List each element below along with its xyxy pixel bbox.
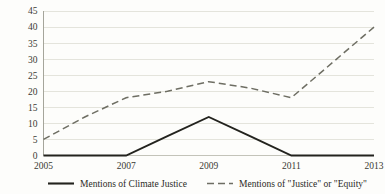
- x-tick-label: 2011: [282, 161, 301, 171]
- y-tick-label: 20: [28, 87, 38, 97]
- y-tick-label: 25: [28, 71, 38, 81]
- x-tick-labels: 20052007200920112013: [34, 161, 384, 171]
- y-tick-label: 45: [28, 6, 38, 16]
- line-chart: 051015202530354045 20052007200920112013 …: [0, 0, 385, 194]
- y-tick-label: 5: [33, 135, 38, 145]
- y-tick-label: 0: [33, 151, 38, 161]
- y-tick-label: 10: [28, 119, 38, 129]
- y-tick-labels: 051015202530354045: [28, 6, 38, 161]
- legend: Mentions of Climate Justice Mentions of …: [48, 179, 367, 189]
- x-tick-label: 2005: [34, 161, 53, 171]
- x-tick-label: 2009: [199, 161, 218, 171]
- x-tick-label: 2007: [117, 161, 136, 171]
- chart-canvas: 051015202530354045 20052007200920112013 …: [0, 0, 385, 194]
- y-tick-label: 15: [28, 103, 38, 113]
- y-tick-label: 40: [28, 22, 38, 32]
- gridlines: [44, 12, 375, 140]
- legend-label-justice-or-equity: Mentions of "Justice" or "Equity": [239, 179, 367, 189]
- series-line-mentions-of-justice-or-equity: [44, 27, 375, 139]
- y-tick-label: 35: [28, 39, 38, 49]
- x-tick-label: 2013: [365, 161, 384, 171]
- legend-label-climate-justice: Mentions of Climate Justice: [80, 179, 187, 189]
- plot-area: 051015202530354045 20052007200920112013 …: [0, 0, 385, 194]
- series-line-mentions-of-climate-justice: [44, 117, 375, 156]
- y-tick-label: 30: [28, 55, 38, 65]
